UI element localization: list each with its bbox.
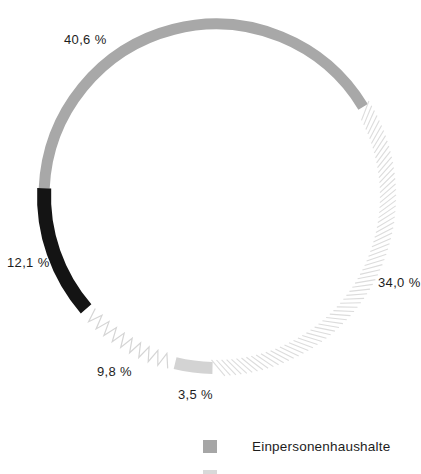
legend: Einpersonenhaushalte (203, 439, 390, 454)
legend-swatch (203, 440, 217, 453)
segment-label-3-5: 3,5 % (178, 387, 213, 402)
segment-label-40-6: 40,6 % (64, 32, 107, 47)
chart-canvas: 40,6 % 34,0 % 3,5 % 9,8 % 12,1 % Einpers… (0, 0, 421, 474)
ring-segment-2-solid (175, 363, 212, 368)
donut-ring-svg (0, 0, 421, 474)
ring-segment-3-zigzag (89, 309, 168, 369)
legend-label: Einpersonenhaushalte (252, 439, 390, 454)
ring-segment-4-solid (44, 188, 86, 309)
ring-segment-0-solid (44, 24, 363, 188)
legend-swatch-partial-next-row (203, 470, 217, 474)
ring-segment-1-hatch (212, 101, 397, 376)
segment-label-12-1: 12,1 % (7, 255, 50, 270)
segment-label-9-8: 9,8 % (97, 364, 132, 379)
segment-label-34-0: 34,0 % (378, 275, 421, 290)
